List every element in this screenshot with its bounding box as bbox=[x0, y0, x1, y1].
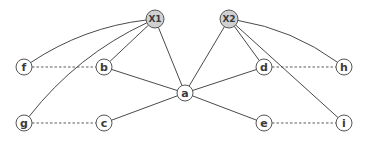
edge-X2-h bbox=[238, 20, 338, 62]
node-x1: X1 bbox=[146, 10, 164, 28]
node-b: b bbox=[96, 59, 112, 75]
node-e: e bbox=[256, 115, 272, 131]
node-layer: X1X2fbadhgcei bbox=[16, 10, 352, 131]
node-label-g: g bbox=[20, 117, 28, 130]
node-label-d: d bbox=[260, 61, 268, 74]
node-label-c: c bbox=[101, 117, 108, 130]
edge-a-e bbox=[192, 96, 256, 120]
node-h: h bbox=[336, 59, 352, 75]
node-f: f bbox=[16, 59, 32, 75]
edge-X1-a bbox=[158, 27, 182, 85]
node-label-h: h bbox=[340, 61, 348, 74]
edge-layer bbox=[29, 20, 338, 123]
node-label-f: f bbox=[22, 61, 27, 74]
node-g: g bbox=[16, 115, 32, 131]
node-label-x2: X2 bbox=[222, 14, 235, 24]
node-a: a bbox=[177, 85, 193, 101]
edge-a-b bbox=[112, 69, 178, 90]
graph-diagram: X1X2fbadhgcei bbox=[0, 0, 373, 142]
edge-X1-f bbox=[31, 20, 146, 63]
edge-a-d bbox=[193, 70, 257, 91]
edge-X1-g bbox=[29, 23, 147, 117]
node-label-a: a bbox=[181, 87, 188, 100]
node-label-x1: X1 bbox=[148, 14, 161, 24]
node-label-b: b bbox=[100, 61, 108, 74]
edge-a-c bbox=[112, 96, 178, 120]
node-x2: X2 bbox=[220, 10, 238, 28]
node-label-i: i bbox=[342, 117, 346, 130]
node-i: i bbox=[336, 115, 352, 131]
node-c: c bbox=[96, 115, 112, 131]
edge-X2-a bbox=[189, 27, 224, 86]
edge-X1-b bbox=[110, 25, 149, 61]
node-d: d bbox=[256, 59, 272, 75]
node-label-e: e bbox=[260, 117, 267, 130]
